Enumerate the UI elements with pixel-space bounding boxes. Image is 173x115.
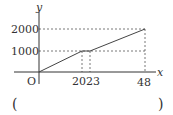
y-tick-1000: 1000: [11, 45, 39, 58]
answer-open-paren: (: [12, 96, 17, 112]
origin-label: O: [27, 75, 36, 88]
data-line: [39, 29, 145, 72]
y-axis-label: y: [35, 1, 43, 14]
x-axis-label: x: [157, 66, 164, 79]
line-graph: y x 2000 1000 O 2023 48: [0, 0, 173, 115]
y-tick-2000: 2000: [11, 23, 39, 36]
answer-close-paren: ): [158, 96, 163, 112]
x-tick-48: 48: [137, 76, 151, 89]
x-tick-2023: 2023: [72, 75, 100, 88]
